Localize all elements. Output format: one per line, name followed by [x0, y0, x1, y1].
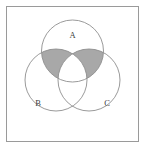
set-label-b: B [35, 98, 41, 108]
set-label-a: A [69, 30, 76, 40]
set-label-c: C [104, 98, 110, 108]
venn-diagram-canvas: A B C [0, 0, 145, 148]
venn-diagram-figure: A B C [0, 0, 145, 148]
